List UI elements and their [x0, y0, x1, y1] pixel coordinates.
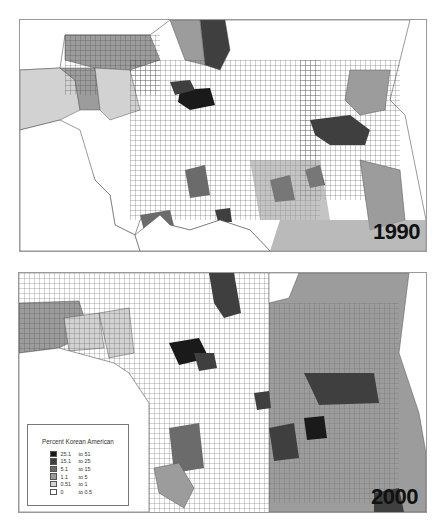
legend-row: 15.1 to 25 [50, 458, 92, 466]
legend-to: to 25 [79, 458, 91, 464]
map-panel-1990: 1990 [19, 19, 427, 252]
legend-to: to 1 [79, 481, 88, 487]
legend-to: to 51 [79, 451, 91, 457]
legend-from: 0.51 [61, 481, 79, 487]
legend-swatch [50, 458, 57, 465]
legend-from: 0 [61, 489, 79, 495]
legend-swatch [50, 466, 57, 473]
legend-row: 0 to 0.5 [50, 488, 92, 496]
legend-swatch [50, 473, 57, 480]
legend-swatch [50, 481, 57, 488]
legend-from: 25.1 [61, 451, 79, 457]
legend-title: Percent Korean American [28, 438, 128, 445]
legend-row: 25.1 to 51 [50, 450, 92, 458]
legend-swatch [50, 451, 57, 458]
legend-from: 5.1 [61, 466, 79, 472]
legend-to: to 5 [79, 474, 88, 480]
legend-row: 5.1 to 15 [50, 465, 92, 473]
legend-row: 1.1 to 5 [50, 473, 92, 481]
legend-from: 1.1 [61, 474, 79, 480]
map-panel-2000: Percent Korean American 25.1 to 51 15.1 … [18, 272, 427, 513]
legend-to: to 0.5 [79, 489, 93, 495]
legend-swatch [50, 489, 57, 496]
year-label-2000: 2000 [371, 484, 418, 510]
legend-from: 15.1 [61, 458, 79, 464]
map-legend: Percent Korean American 25.1 to 51 15.1 … [27, 424, 129, 506]
choropleth-map-1990 [20, 20, 426, 251]
legend-row: 0.51 to 1 [50, 480, 92, 488]
year-label-1990: 1990 [373, 219, 420, 245]
legend-to: to 15 [79, 466, 91, 472]
